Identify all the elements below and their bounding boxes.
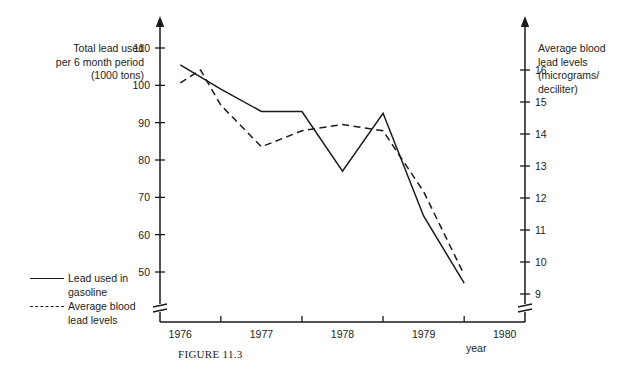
series-group xyxy=(180,65,464,283)
axis-break-left xyxy=(153,304,167,307)
legend-item-label: Lead used in gasoline xyxy=(68,272,128,299)
dashed-line-swatch xyxy=(28,300,68,314)
x-tick-label: 1976 xyxy=(169,328,193,340)
axis-break-right xyxy=(518,304,532,307)
y2-tick-label: 15 xyxy=(535,96,547,108)
axis-break-left xyxy=(153,309,167,312)
x-axis-unit-label: year xyxy=(466,342,486,354)
y-tick-label: 110 xyxy=(133,42,150,54)
x-tick-label: 1978 xyxy=(331,328,355,340)
chart-legend: Lead used in gasoline Average blood lead… xyxy=(28,272,136,328)
y-tick-label: 70 xyxy=(138,191,150,203)
figure-root: Total lead used per 6 month period (1000… xyxy=(0,0,640,371)
y-tick-label: 90 xyxy=(138,117,150,129)
axis-break-right xyxy=(518,309,532,312)
y-tick-label: 50 xyxy=(138,266,150,278)
y-tick-label: 80 xyxy=(138,154,150,166)
legend-item: Average blood lead levels xyxy=(28,300,136,327)
axes-group xyxy=(153,16,532,322)
y2-tick-label: 16 xyxy=(535,64,547,76)
series-line-blood-lead xyxy=(180,70,464,275)
y2-tick-label: 12 xyxy=(535,192,547,204)
legend-item: Lead used in gasoline xyxy=(28,272,136,299)
y-tick-label: 100 xyxy=(132,79,150,91)
y2-tick-label: 10 xyxy=(535,256,547,268)
y-tick-label: 60 xyxy=(138,229,150,241)
solid-line-swatch xyxy=(28,272,68,286)
tick-labels-group: 1101009080706050161514131211109197619771… xyxy=(132,42,546,340)
series-line-gasoline-lead xyxy=(180,65,464,283)
y2-tick-label: 14 xyxy=(535,128,547,140)
y2-tick-label: 9 xyxy=(535,288,541,300)
x-tick-label: 1979 xyxy=(412,328,436,340)
x-tick-label: 1977 xyxy=(250,328,274,340)
y2-tick-label: 11 xyxy=(535,224,546,236)
figure-caption: FIGURE 11.3 xyxy=(178,348,243,360)
x-tick-label: 1980 xyxy=(493,328,517,340)
legend-item-label: Average blood lead levels xyxy=(68,300,136,327)
y2-tick-label: 13 xyxy=(535,160,547,172)
